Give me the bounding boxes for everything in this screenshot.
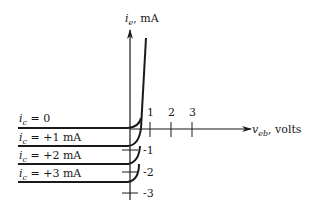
y-tick-label: -2 [143,166,154,179]
curve-label-ic3: ic = +3 mA [19,167,82,182]
x-tick-label: 3 [189,106,196,119]
y-tick-label: -3 [143,187,154,200]
x-tick-label: 2 [168,106,175,119]
y-tick-label: -1 [143,144,154,157]
x-axis-label: veb, volts [252,123,302,138]
curve-label-ic2: ic = +2 mA [19,149,82,164]
x-tick-label: 1 [147,106,154,119]
curve-forward [141,38,146,128]
curve-label-ic1: ic = +1 mA [19,131,82,146]
y-axis-label: ie, mA [125,12,160,27]
transistor-characteristic-diagram: ie, mA veb, volts 1 2 3 -1 -2 -3 ic = 0 … [0,0,328,210]
curve-label-ic0: ic = 0 [19,112,50,127]
